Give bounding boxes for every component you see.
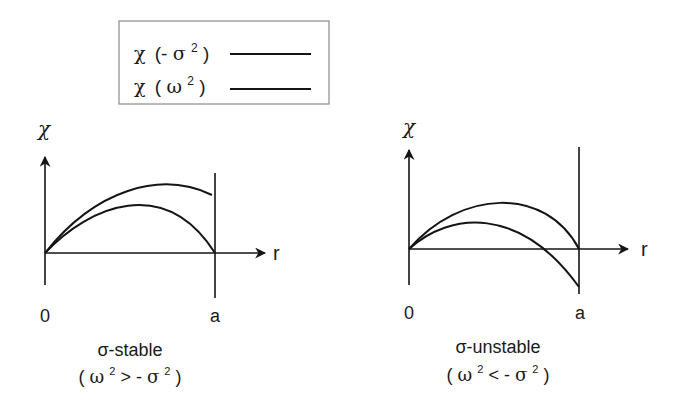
curve-chi-omega [409, 223, 579, 287]
origin-tick-label: 0 [404, 303, 414, 323]
origin-tick-label: 0 [40, 306, 50, 326]
curve-chi-omega [45, 205, 215, 253]
boundary-tick-label: a [210, 306, 221, 326]
y-axis-label: χ [36, 117, 52, 141]
panel-condition: ( ω 2 > - σ 2 ) [79, 359, 182, 387]
x-axis-label: r [273, 242, 280, 264]
panel-title: σ-stable [97, 340, 162, 360]
curve-chi-minus-sigma [409, 203, 579, 249]
panel-title: σ-unstable [455, 337, 540, 357]
diagram-canvas: χ (- σ 2 ) χ ( ω 2 ) χ r 0 [0, 0, 679, 413]
panel-stable: χ r 0 a σ-stable ( ω 2 > - σ 2 ) [36, 117, 280, 387]
panel-unstable: χ r 0 a σ-unstable ( ω 2 < - σ 2 ) [401, 115, 648, 385]
x-axis-label: r [641, 238, 648, 260]
y-axis-label: χ [401, 115, 417, 139]
curve-chi-minus-sigma [45, 185, 212, 253]
boundary-tick-label: a [575, 303, 586, 323]
legend: χ (- σ 2 ) χ ( ω 2 ) [119, 21, 329, 104]
panel-condition: ( ω 2 < - σ 2 ) [447, 357, 550, 385]
